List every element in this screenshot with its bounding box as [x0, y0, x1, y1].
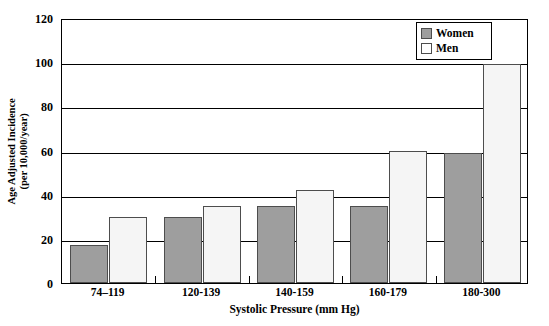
x-tick-label-120-139: 120-139: [182, 286, 220, 298]
x-tick-mark-1: [155, 276, 156, 283]
x-tick-label-74–119: 74–119: [91, 286, 125, 298]
bar-women-140-159: [257, 206, 295, 283]
y-tick-mark-80: [62, 108, 68, 109]
bar-women-74–119: [70, 245, 108, 283]
x-tick-label-180-300: 180-300: [462, 286, 500, 298]
y-tick-label-120: 120: [0, 12, 59, 27]
y-tick-label-80: 80: [0, 100, 59, 115]
chart-legend: WomenMen: [416, 22, 492, 60]
bar-men-140-159: [296, 190, 334, 283]
legend-item-women: Women: [421, 26, 485, 41]
y-tick-mark-60: [62, 153, 68, 154]
bar-women-180-300: [444, 153, 482, 283]
gridline-80: [62, 108, 527, 109]
legend-label-men: Men: [436, 43, 458, 55]
bar-women-120-139: [164, 217, 202, 283]
bar-men-180-300: [483, 64, 521, 283]
y-axis-tick-labels: 020406080100120: [0, 0, 59, 326]
x-tick-mark-2: [249, 276, 250, 283]
x-tick-label-160-179: 160-179: [369, 286, 407, 298]
bar-chart: Age Adjusted Incidence (per 10,000/year)…: [0, 0, 549, 326]
legend-swatch-icon-women: [421, 28, 432, 39]
bar-men-160-179: [389, 151, 427, 284]
y-tick-mark-20: [62, 241, 68, 242]
y-tick-mark-100: [62, 64, 68, 65]
y-tick-label-20: 20: [0, 232, 59, 247]
legend-swatch-icon-men: [421, 43, 432, 54]
x-axis-title: Systolic Pressure (mm Hg): [61, 303, 528, 315]
y-tick-label-100: 100: [0, 56, 59, 71]
y-tick-label-40: 40: [0, 188, 59, 203]
bar-men-74–119: [109, 217, 147, 283]
x-tick-label-140-159: 140-159: [275, 286, 313, 298]
y-tick-label-0: 0: [0, 277, 59, 292]
bar-men-120-139: [203, 206, 241, 283]
x-tick-mark-3: [342, 276, 343, 283]
x-tick-mark-4: [436, 276, 437, 283]
legend-item-men: Men: [421, 41, 485, 56]
x-axis-tick-labels: 74–119120-139140-159160-179180-300: [61, 286, 528, 304]
y-tick-mark-40: [62, 197, 68, 198]
legend-label-women: Women: [436, 28, 474, 40]
gridline-100: [62, 64, 527, 65]
y-tick-label-60: 60: [0, 144, 59, 159]
bar-women-160-179: [350, 206, 388, 283]
